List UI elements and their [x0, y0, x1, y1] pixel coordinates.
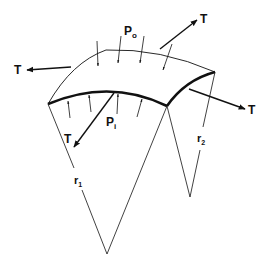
- label-tension-left: T: [14, 63, 22, 77]
- tension-arrow-left: [27, 67, 71, 70]
- shell-element-diagram: Po T T T Pi T r1 r2: [0, 0, 270, 268]
- label-radius-r1: r1: [74, 174, 82, 188]
- label-tension-top-right: T: [200, 12, 208, 26]
- label-outer-pressure: Po: [124, 24, 137, 40]
- label-inner-pressure: Pi: [106, 115, 116, 131]
- tension-arrow-right: [189, 89, 245, 109]
- radius-r2-lines: [167, 72, 215, 197]
- tension-arrow-top-right: [160, 20, 197, 49]
- label-tension-right: T: [248, 103, 256, 117]
- label-radius-r2: r2: [197, 132, 205, 146]
- outer-pressure-arrows: [97, 36, 172, 70]
- label-tension-bottom-left: T: [64, 132, 72, 146]
